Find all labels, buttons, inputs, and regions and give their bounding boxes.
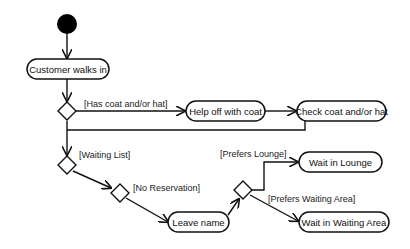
guard-no-reservation: [No Reservation] [133, 183, 200, 193]
action-check-coat: Check coat and/or hat [295, 101, 388, 121]
activity-diagram: Customer walks in Help off with coat Che… [0, 0, 410, 249]
action-label: Wait in Lounge [309, 157, 372, 168]
decision-node-3 [111, 184, 129, 202]
action-leave-name: Leave name [168, 212, 229, 232]
edge-decision-4-to-wait-lounge [251, 162, 298, 190]
start-node [57, 14, 77, 34]
decision-node-4 [234, 181, 252, 199]
edge-decision-2-to-decision-3 [73, 171, 111, 188]
guard-has-coat: [Has coat and/or hat] [84, 99, 168, 109]
action-label: Leave name [172, 217, 224, 228]
action-label: Check coat and/or hat [295, 106, 388, 117]
guard-prefers-waiting-area: [Prefers Waiting Area] [268, 194, 355, 204]
action-label: Customer walks in [29, 64, 107, 75]
action-customer-walks-in: Customer walks in [27, 59, 109, 79]
guard-prefers-lounge: [Prefers Lounge] [220, 149, 287, 159]
action-label: Help off with coat [189, 106, 262, 117]
edge-leave-name-to-decision-4 [228, 199, 239, 215]
action-wait-in-lounge: Wait in Lounge [299, 152, 382, 172]
edge-decision-3-to-leave-name [126, 198, 168, 222]
action-help-off-with-coat: Help off with coat [186, 101, 265, 121]
edge-check-coat-return [67, 121, 305, 130]
action-label: Wait in Waiting Area [302, 217, 388, 228]
decision-node-1 [58, 102, 76, 120]
guard-waiting-list: [Waiting List] [79, 150, 130, 160]
action-wait-in-waiting-area: Wait in Waiting Area [299, 212, 389, 232]
